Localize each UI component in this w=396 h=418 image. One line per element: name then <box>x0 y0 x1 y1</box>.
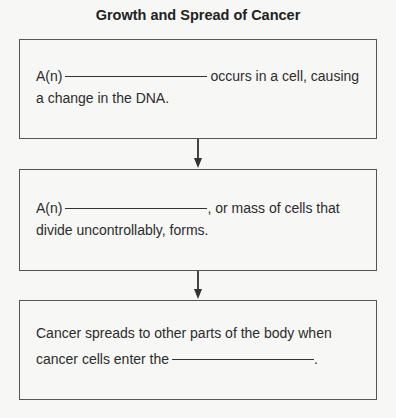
arrowhead-down-icon <box>194 289 202 299</box>
step-2-prefix: A(n) <box>36 200 62 216</box>
step-1-line-1: A(n)occurs in a cell, causing <box>36 68 359 84</box>
step-1-line-2: a change in the DNA. <box>36 90 169 106</box>
arrowhead-down-icon <box>194 158 202 168</box>
step-2-answer-blank[interactable] <box>65 207 207 209</box>
flow-arrow-2 <box>197 271 199 290</box>
step-2-suffix: , or mass of cells that <box>207 200 339 216</box>
step-1-answer-blank[interactable] <box>65 75 207 77</box>
flow-arrow-1 <box>197 139 199 159</box>
step-3-prefix: cancer cells enter the <box>36 351 169 367</box>
step-3-answer-blank[interactable] <box>172 358 314 360</box>
step-3-line-1: Cancer spreads to other parts of the bod… <box>36 325 332 341</box>
diagram-title: Growth and Spread of Cancer <box>0 7 396 23</box>
step-3-suffix: . <box>314 351 318 367</box>
step-3-line-2: cancer cells enter the. <box>36 351 318 367</box>
step-1-prefix: A(n) <box>36 68 62 84</box>
flow-step-2-box: A(n), or mass of cells that divide uncon… <box>19 169 377 271</box>
flow-step-3-box: Cancer spreads to other parts of the bod… <box>19 300 377 400</box>
flow-step-1-box: A(n)occurs in a cell, causing a change i… <box>19 39 377 139</box>
step-1-suffix: occurs in a cell, causing <box>210 68 359 84</box>
step-2-line-1: A(n), or mass of cells that <box>36 200 340 216</box>
step-2-line-2: divide uncontrollably, forms. <box>36 222 208 238</box>
